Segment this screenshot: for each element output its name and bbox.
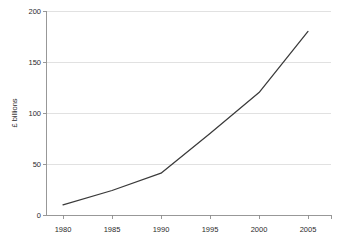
chart-canvas: 200 150 100 50 0 1980 1985 1990 1995 200… bbox=[0, 0, 344, 246]
y-tick-label-100: 100 bbox=[28, 109, 41, 118]
x-tick-label-1990: 1990 bbox=[153, 225, 170, 234]
x-tick-label-1980: 1980 bbox=[55, 225, 72, 234]
y-tick-label-0: 0 bbox=[37, 211, 41, 220]
x-tick-label-1995: 1995 bbox=[202, 225, 219, 234]
line-chart: 200 150 100 50 0 1980 1985 1990 1995 200… bbox=[0, 0, 344, 246]
y-tick-label-150: 150 bbox=[28, 58, 41, 67]
chart-background bbox=[0, 0, 344, 246]
y-axis-title: £ billions bbox=[10, 98, 19, 127]
x-tick-label-2000: 2000 bbox=[251, 225, 268, 234]
y-tick-label-200: 200 bbox=[28, 7, 41, 16]
x-tick-label-1985: 1985 bbox=[104, 225, 121, 234]
x-tick-label-2005: 2005 bbox=[300, 225, 317, 234]
y-tick-label-50: 50 bbox=[33, 160, 41, 169]
